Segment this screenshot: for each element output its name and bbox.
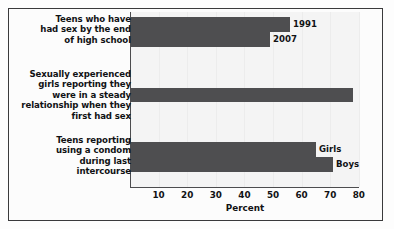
category-line: were in a steady bbox=[21, 90, 131, 100]
category-label-group-3: Teens reporting using a condom during la… bbox=[56, 135, 131, 177]
category-line: had sex by the end bbox=[40, 24, 131, 34]
series-label-girls: Girls bbox=[319, 144, 341, 154]
category-line: relationship when they bbox=[21, 100, 131, 110]
x-tick-70: 70 bbox=[317, 190, 343, 200]
x-axis-line bbox=[130, 187, 359, 189]
x-axis-title: Percent bbox=[130, 203, 360, 213]
bar-girls bbox=[130, 142, 316, 157]
chart-figure: 1991 2007 Girls Boys Teens who have had … bbox=[0, 0, 394, 229]
category-label-group-1: Teens who have had sex by the end of hig… bbox=[40, 14, 131, 45]
series-label-2007: 2007 bbox=[273, 34, 297, 44]
category-label-group-2: Sexually experienced girls reporting the… bbox=[21, 69, 131, 121]
x-tick-80: 80 bbox=[346, 190, 372, 200]
bar-boys bbox=[130, 157, 333, 172]
x-tick-40: 40 bbox=[231, 190, 257, 200]
x-tick-20: 20 bbox=[174, 190, 200, 200]
category-line: during last bbox=[56, 156, 131, 166]
category-line: first had sex bbox=[21, 111, 131, 121]
category-line: Sexually experienced bbox=[21, 69, 131, 79]
category-line: Teens who have bbox=[40, 14, 131, 24]
bar-2007 bbox=[130, 32, 270, 47]
category-line: girls reporting they bbox=[21, 79, 131, 89]
category-line: Teens reporting bbox=[56, 135, 131, 145]
category-line: of high school bbox=[40, 35, 131, 45]
category-line: using a condom bbox=[56, 145, 131, 155]
x-tick-50: 50 bbox=[260, 190, 286, 200]
series-label-1991: 1991 bbox=[293, 19, 317, 29]
category-line: intercourse bbox=[56, 166, 131, 176]
series-label-boys: Boys bbox=[336, 159, 359, 169]
x-tick-30: 30 bbox=[203, 190, 229, 200]
x-tick-10: 10 bbox=[146, 190, 172, 200]
bar-1991 bbox=[130, 17, 290, 32]
bar-steady-relationship bbox=[130, 88, 353, 102]
x-tick-60: 60 bbox=[289, 190, 315, 200]
